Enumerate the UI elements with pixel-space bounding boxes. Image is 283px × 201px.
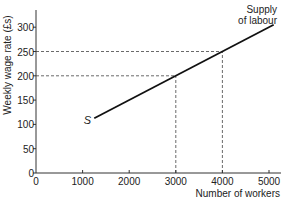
axes: [36, 10, 281, 173]
y-tick-label: 100: [17, 119, 34, 130]
dashed-reference-lines: [36, 52, 222, 174]
chart-canvas: 050100150200250300010002000300040005000 …: [0, 0, 283, 201]
y-tick-label: 300: [17, 22, 34, 33]
curve-name-line1: Supply: [246, 4, 277, 15]
y-tick-label: 250: [17, 47, 34, 58]
y-tick-label: 150: [17, 95, 34, 106]
supply-of-labour-chart: 050100150200250300010002000300040005000 …: [0, 0, 283, 201]
x-tick-label: 1000: [71, 176, 94, 187]
y-axis-label: Weekly wage rate (£s): [2, 15, 13, 114]
supply-curve: [94, 25, 273, 119]
x-tick-label: 2000: [118, 176, 141, 187]
curve-name-line2: of labour: [238, 15, 278, 26]
x-axis-label: Number of workers: [196, 188, 280, 199]
curve-start-label: S: [84, 114, 92, 126]
supply-line: [94, 25, 273, 119]
tick-marks: 050100150200250300010002000300040005000: [17, 22, 280, 187]
y-tick-label: 200: [17, 71, 34, 82]
x-tick-label: 3000: [165, 176, 188, 187]
y-tick-label: 50: [23, 144, 35, 155]
x-tick-label: 5000: [258, 176, 281, 187]
x-tick-label: 0: [33, 176, 39, 187]
x-tick-label: 4000: [211, 176, 234, 187]
